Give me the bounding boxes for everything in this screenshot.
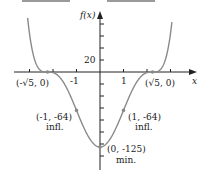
inflection-left-point	[75, 109, 79, 113]
minimum-label: (0, -125)	[107, 144, 146, 154]
y-axis-arrow-icon	[97, 11, 103, 19]
x-axis-arrow-icon	[189, 69, 197, 75]
y-axis-label: f(x)	[79, 10, 96, 20]
inflection-right-note: infl.	[135, 122, 153, 132]
root-left-label: (-√5, 0)	[16, 78, 49, 88]
tick-label-20: 20	[84, 55, 96, 65]
function-graph: f(x) x 20 -1 1 (-√5, 0) (√5, 0) (-1, -64…	[0, 0, 208, 178]
root-right-label: (√5, 0)	[145, 78, 175, 88]
inflection-right-label: (1, -64)	[128, 112, 161, 122]
tick-label-1: 1	[121, 76, 127, 86]
y-ticks	[100, 24, 104, 156]
inflection-right-point	[122, 109, 126, 113]
inflection-left-label: (-1, -64)	[36, 112, 72, 122]
root-right-point	[151, 70, 155, 74]
minimum-note: min.	[116, 155, 136, 165]
inflection-left-note: infl.	[46, 122, 64, 132]
x-axis-label: x	[192, 76, 197, 86]
tick-label-neg1: -1	[70, 76, 79, 86]
root-left-point	[46, 70, 50, 74]
minimum-point	[98, 145, 102, 149]
